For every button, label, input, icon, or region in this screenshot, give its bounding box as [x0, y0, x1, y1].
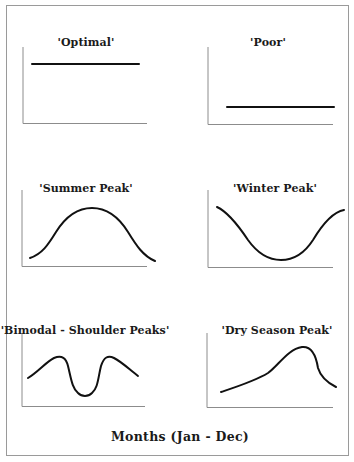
title-bimodal: 'Bimodal - Shoulder Peaks': [1, 324, 170, 337]
curve-bimodal: [28, 357, 138, 396]
small-multiples-plot: [0, 0, 354, 462]
curve-summer-peak: [30, 208, 155, 261]
title-dry-season-peak: 'Dry Season Peak': [221, 324, 332, 337]
curve-dry-season-peak: [221, 347, 336, 392]
title-optimal: 'Optimal': [57, 36, 114, 49]
title-poor: 'Poor': [250, 36, 286, 49]
title-winter-peak: 'Winter Peak': [233, 182, 317, 195]
axes-winter-peak: [208, 190, 333, 268]
curve-winter-peak: [217, 207, 344, 260]
axes-summer-peak: [22, 190, 147, 267]
x-axis-label: Months (Jan - Dec): [111, 429, 249, 444]
axes-optimal: [23, 47, 147, 124]
title-summer-peak: 'Summer Peak': [39, 182, 133, 195]
axes-poor: [208, 47, 333, 125]
